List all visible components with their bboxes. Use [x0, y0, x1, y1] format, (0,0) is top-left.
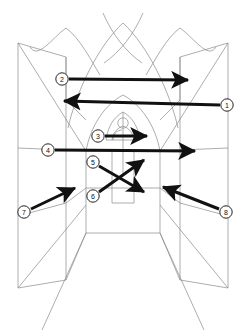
- arrow-4: [55, 150, 195, 151]
- callout-3[interactable]: 3: [92, 130, 104, 142]
- arrow-1: [64, 101, 220, 105]
- altar-window: [106, 112, 140, 203]
- callout-1-label: 1: [225, 102, 229, 109]
- church-linework: [18, 13, 228, 330]
- callout-5-label: 5: [91, 159, 95, 166]
- callout-3-label: 3: [96, 133, 100, 140]
- callout-6[interactable]: 6: [87, 190, 99, 202]
- callout-7-label: 7: [22, 209, 26, 216]
- callout-2[interactable]: 2: [56, 73, 68, 85]
- architectural-line-drawing: 1 2 3 4 5 6: [0, 0, 246, 336]
- callout-arrows: [31, 79, 220, 209]
- callout-8-label: 8: [224, 209, 228, 216]
- callout-4-label: 4: [46, 147, 50, 154]
- callout-5[interactable]: 5: [87, 156, 99, 168]
- callout-6-label: 6: [91, 193, 95, 200]
- callout-8[interactable]: 8: [220, 206, 232, 218]
- arrow-2: [69, 79, 188, 80]
- callout-2-label: 2: [60, 76, 64, 83]
- figure-canvas: 1 2 3 4 5 6: [0, 0, 246, 336]
- callout-1[interactable]: 1: [221, 99, 233, 111]
- arrow-7: [31, 188, 75, 209]
- callout-7[interactable]: 7: [18, 206, 30, 218]
- callout-4[interactable]: 4: [42, 144, 54, 156]
